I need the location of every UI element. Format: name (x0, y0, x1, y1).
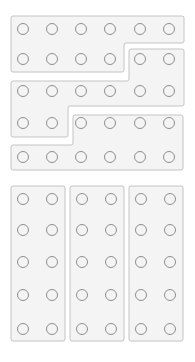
grouping-diagram (0, 0, 195, 362)
top-arrangement (11, 16, 184, 170)
bottom-arrangement (11, 186, 183, 341)
